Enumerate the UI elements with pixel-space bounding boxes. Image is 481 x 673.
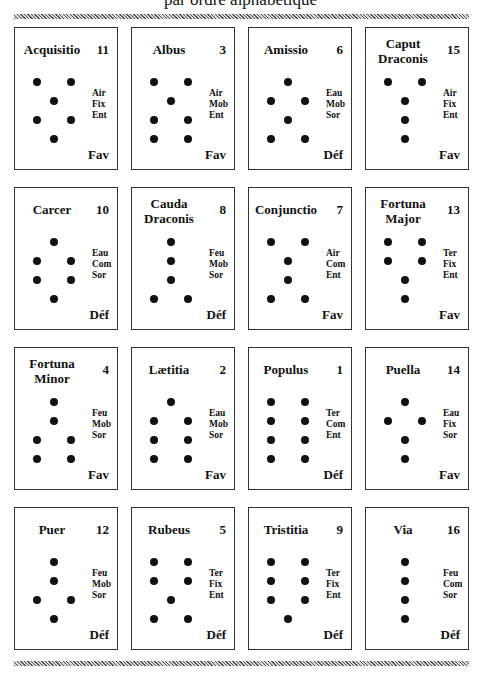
geomancy-dot-icon bbox=[184, 116, 192, 124]
figure-name: Via bbox=[370, 522, 436, 537]
geomancy-dot-icon bbox=[284, 116, 292, 124]
bottom-hatched-rule bbox=[14, 661, 469, 666]
figure-status: Déf bbox=[441, 627, 461, 643]
attribute-label: Sor bbox=[92, 590, 111, 601]
figure-number: 10 bbox=[96, 202, 109, 217]
attribute-label: Feu bbox=[92, 568, 111, 579]
figure-attributes: FeuComSor bbox=[443, 568, 463, 601]
attribute-label: Feu bbox=[443, 568, 463, 579]
figure-number: 3 bbox=[220, 42, 227, 57]
attribute-label: Ent bbox=[326, 590, 341, 601]
geomancy-dot-icon bbox=[184, 417, 192, 425]
figure-status: Déf bbox=[324, 147, 344, 163]
figure-attributes: EauFixSor bbox=[443, 408, 459, 441]
attribute-label: Sor bbox=[326, 110, 345, 121]
attribute-label: Air bbox=[443, 88, 458, 99]
figure-number: 11 bbox=[97, 42, 109, 57]
geomancy-dot-icon bbox=[184, 455, 192, 463]
attribute-label: Fix bbox=[326, 579, 341, 590]
geomancy-dot-icon bbox=[50, 417, 58, 425]
attribute-label: Mob bbox=[209, 419, 228, 430]
figure-card: Populus1TerComEntDéf bbox=[248, 347, 352, 490]
geomancy-dot-icon bbox=[418, 257, 426, 265]
geomancy-dot-icon bbox=[67, 455, 75, 463]
attribute-label: Sor bbox=[92, 270, 112, 281]
geomancy-dot-icon bbox=[267, 238, 275, 246]
figure-attributes: AirMobEnt bbox=[209, 88, 228, 121]
figure-number: 14 bbox=[447, 362, 460, 377]
geomancy-dot-icon bbox=[267, 577, 275, 585]
geomancy-dot-icon bbox=[50, 398, 58, 406]
geomancy-dot-icon bbox=[184, 78, 192, 86]
geomancy-dot-icon bbox=[401, 577, 409, 585]
figure-status: Fav bbox=[88, 467, 109, 483]
figure-status: Fav bbox=[322, 307, 343, 323]
attribute-label: Sor bbox=[92, 430, 111, 441]
geomancy-dot-icon bbox=[284, 615, 292, 623]
figure-name: Conjunctio bbox=[253, 202, 319, 217]
geomancy-dot-icon bbox=[301, 238, 309, 246]
attribute-label: Ter bbox=[443, 248, 458, 259]
attribute-label: Ent bbox=[92, 110, 107, 121]
geomancy-dot-icon bbox=[267, 97, 275, 105]
attribute-label: Feu bbox=[92, 408, 111, 419]
figure-card: Carcer10EauComSorDéf bbox=[14, 187, 118, 330]
geomancy-dot-icon bbox=[401, 398, 409, 406]
geomancy-dot-icon bbox=[418, 78, 426, 86]
attribute-label: Ter bbox=[326, 568, 341, 579]
geomancy-dot-icon bbox=[401, 615, 409, 623]
attribute-label: Com bbox=[92, 259, 112, 270]
figure-name: Rubeus bbox=[136, 522, 202, 537]
figure-status: Fav bbox=[439, 307, 460, 323]
figure-name: Amissio bbox=[253, 42, 319, 57]
geomancy-dot-icon bbox=[401, 135, 409, 143]
geomancy-dot-icon bbox=[50, 558, 58, 566]
geomancy-dot-icon bbox=[33, 78, 41, 86]
geomancy-dot-icon bbox=[384, 78, 392, 86]
geomancy-dot-icon bbox=[184, 577, 192, 585]
geomancy-dot-icon bbox=[67, 116, 75, 124]
geomancy-dot-icon bbox=[384, 238, 392, 246]
geomancy-dot-icon bbox=[401, 436, 409, 444]
geomancy-dot-icon bbox=[150, 455, 158, 463]
attribute-label: Eau bbox=[326, 88, 345, 99]
attribute-label: Eau bbox=[209, 408, 228, 419]
attribute-label: Ent bbox=[443, 270, 458, 281]
attribute-label: Ent bbox=[443, 110, 458, 121]
geomancy-dot-icon bbox=[301, 577, 309, 585]
attribute-label: Ent bbox=[209, 110, 228, 121]
geomancy-dot-icon bbox=[150, 295, 158, 303]
figure-number: 15 bbox=[447, 42, 460, 57]
geomancy-dot-icon bbox=[150, 436, 158, 444]
figure-status: Fav bbox=[439, 147, 460, 163]
figure-status: Fav bbox=[439, 467, 460, 483]
attribute-label: Ent bbox=[326, 270, 346, 281]
attribute-label: Fix bbox=[443, 259, 458, 270]
figure-card: FortunaMajor13TerFixEntFav bbox=[365, 187, 469, 330]
geomancy-dot-icon bbox=[150, 116, 158, 124]
figure-attributes: FeuMobSor bbox=[92, 408, 111, 441]
geomancy-dot-icon bbox=[384, 257, 392, 265]
figure-number: 12 bbox=[96, 522, 109, 537]
attribute-label: Mob bbox=[209, 99, 228, 110]
attribute-label: Air bbox=[209, 88, 228, 99]
geomancy-dot-icon bbox=[50, 238, 58, 246]
attribute-label: Fix bbox=[209, 579, 224, 590]
geomancy-dot-icon bbox=[301, 295, 309, 303]
figure-name: Albus bbox=[136, 42, 202, 57]
geomancy-dot-icon bbox=[33, 436, 41, 444]
geomancy-dot-icon bbox=[150, 558, 158, 566]
attribute-label: Mob bbox=[92, 579, 111, 590]
figure-number: 5 bbox=[220, 522, 227, 537]
figure-status: Déf bbox=[324, 467, 344, 483]
geomancy-dot-icon bbox=[67, 276, 75, 284]
figure-name: Populus bbox=[253, 362, 319, 377]
attribute-label: Feu bbox=[209, 248, 228, 259]
geomancy-dot-icon bbox=[150, 615, 158, 623]
geomancy-dot-icon bbox=[67, 436, 75, 444]
geomancy-dot-icon bbox=[418, 238, 426, 246]
figure-card: Via16FeuComSorDéf bbox=[365, 507, 469, 650]
geomancy-dot-icon bbox=[184, 295, 192, 303]
geomancy-dot-icon bbox=[167, 398, 175, 406]
attribute-label: Mob bbox=[209, 259, 228, 270]
